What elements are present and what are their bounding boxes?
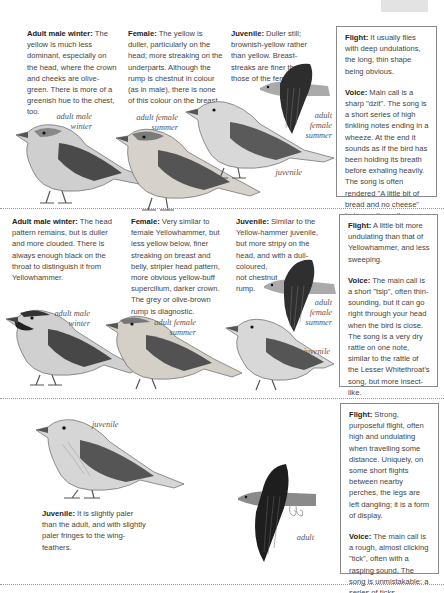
voice-text: Voice: Main call is a sharp "dzit". The … bbox=[345, 87, 429, 233]
flight-text: Flight: A little bit more undulating tha… bbox=[348, 220, 430, 265]
adult-male-winter-description: Adult male winter: The head pattern rema… bbox=[12, 216, 112, 283]
label-adult-female-summer: adult female summer bbox=[130, 113, 178, 133]
female-description: Female: Very similar to female Yellowham… bbox=[131, 216, 221, 317]
label-flying-adult: adult bbox=[290, 533, 314, 543]
voice-text: Voice: The main call is a short "tsip", … bbox=[348, 275, 430, 398]
label-flying-adult-female-summer: adult female summer bbox=[298, 298, 332, 328]
section-divider bbox=[0, 584, 444, 585]
label-juvenile: juvenile bbox=[266, 168, 302, 178]
flight-voice-box: Flight: Strong, purposeful flight, often… bbox=[340, 403, 439, 574]
label-flying-adult-female-summer: adult female summer bbox=[296, 111, 332, 141]
section-divider bbox=[0, 398, 444, 399]
label-adult-male-winter: adult male winter bbox=[42, 309, 90, 329]
label-juvenile: juvenile bbox=[296, 347, 330, 357]
label-juvenile: juvenile bbox=[92, 420, 128, 430]
label-adult-male-winter: adult male winter bbox=[44, 112, 92, 132]
flight-text: Flight: Strong, purposeful flight, often… bbox=[349, 409, 431, 521]
page-tab-marker bbox=[381, 0, 428, 12]
adult-male-winter-description: Adult male winter: The yellow is much le… bbox=[27, 28, 119, 118]
juvenile-description: Juvenile: It is slightly paler than the … bbox=[42, 508, 146, 553]
flight-text: Flight: It usually flies with deep undul… bbox=[345, 32, 429, 77]
flight-voice-box: Flight: It usually flies with deep undul… bbox=[336, 26, 437, 197]
flight-voice-box: Flight: A little bit more undulating tha… bbox=[339, 214, 438, 387]
label-adult-female-summer: adult female summer bbox=[146, 318, 196, 338]
bird-illustration-flying-adult bbox=[236, 462, 321, 562]
bird-illustration-juvenile bbox=[34, 418, 184, 503]
section-divider bbox=[0, 208, 444, 209]
female-description: Female: The yellow is duller, particular… bbox=[128, 28, 224, 106]
